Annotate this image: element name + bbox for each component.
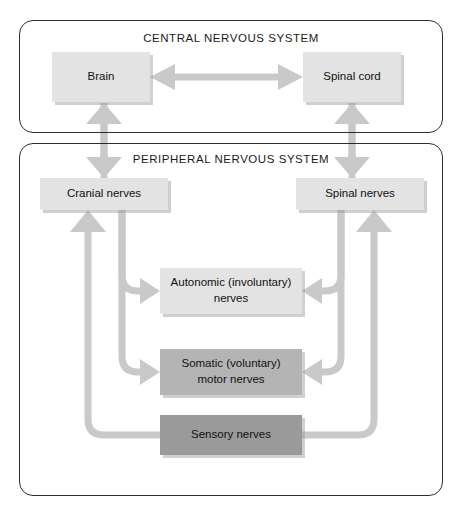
node-cranial-nerves-label: Cranial nerves (67, 186, 141, 202)
node-brain-label: Brain (88, 69, 115, 85)
node-autonomic-nerves: Autonomic (involuntary) nerves (160, 268, 302, 314)
node-somatic-nerves: Somatic (voluntary) motor nerves (160, 349, 302, 395)
node-autonomic-line2: nerves (214, 292, 249, 304)
node-somatic-line1: Somatic (voluntary) (181, 357, 280, 369)
node-somatic-line2: motor nerves (197, 373, 264, 385)
pns-panel-title: PERIPHERAL NERVOUS SYSTEM (20, 153, 442, 165)
node-spinal-nerves-label: Spinal nerves (325, 186, 395, 202)
node-sensory-nerves: Sensory nerves (160, 415, 302, 455)
node-autonomic-line1: Autonomic (involuntary) (171, 276, 292, 288)
node-somatic-nerves-label: Somatic (voluntary) motor nerves (181, 356, 280, 387)
node-sensory-nerves-label: Sensory nerves (191, 427, 271, 443)
node-autonomic-nerves-label: Autonomic (involuntary) nerves (171, 275, 292, 306)
node-brain: Brain (52, 52, 150, 102)
cns-panel-title: CENTRAL NERVOUS SYSTEM (20, 32, 442, 44)
nervous-system-diagram: .conn { fill: none; stroke: #c9c9c9; str… (0, 0, 463, 525)
node-spinal-nerves: Spinal nerves (296, 178, 424, 210)
node-cranial-nerves: Cranial nerves (40, 178, 168, 210)
node-spinal-cord: Spinal cord (303, 52, 401, 102)
node-spinal-cord-label: Spinal cord (323, 69, 381, 85)
